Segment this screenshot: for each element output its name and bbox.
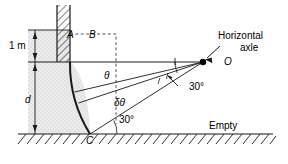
label-point-a: A bbox=[67, 29, 74, 40]
label-axle-caption-line2: axle bbox=[240, 42, 258, 53]
label-theta: θ bbox=[104, 70, 109, 81]
c-30deg-arc bbox=[114, 121, 117, 135]
axle-30deg-arrowhead bbox=[167, 75, 173, 79]
radial-line-theta-plus-delta bbox=[79, 62, 204, 103]
axle-caption-arrowhead bbox=[205, 58, 212, 64]
axle-caption-leader bbox=[207, 46, 220, 58]
label-axle-caption-line1: Horizontal bbox=[218, 30, 263, 41]
label-delta-theta: δθ bbox=[114, 97, 125, 108]
label-angle-at-axle: 30° bbox=[189, 81, 204, 92]
axle-30deg-arc bbox=[158, 78, 160, 84]
label-empty-region: Empty bbox=[209, 120, 237, 131]
label-point-o: O bbox=[224, 56, 232, 67]
label-angle-at-c: 30° bbox=[119, 114, 134, 125]
ground-hatching bbox=[18, 134, 276, 144]
label-depth-d: d bbox=[25, 94, 31, 105]
label-point-c: C bbox=[86, 135, 93, 146]
label-depth-1m: 1 m bbox=[9, 40, 26, 51]
radial-line-theta bbox=[75, 62, 204, 92]
axle-point-marker bbox=[200, 59, 206, 65]
label-point-b: B bbox=[89, 29, 96, 40]
figure-container: A B C O 1 m d θ δθ 30° 30° Horizontal ax… bbox=[0, 0, 288, 164]
diagram-canvas bbox=[0, 0, 288, 164]
